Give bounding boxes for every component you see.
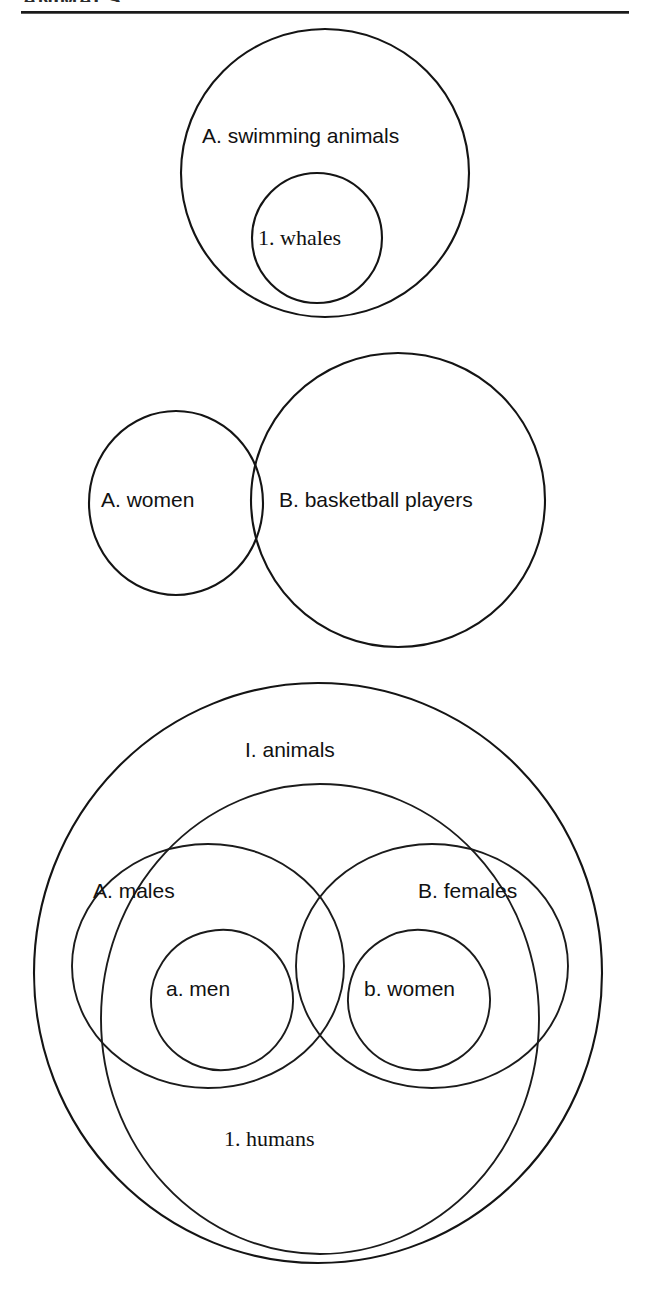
animals-circle <box>34 683 602 1263</box>
figure-3-shapes <box>34 683 602 1263</box>
label-whales: 1. whales <box>258 227 341 249</box>
label-humans: 1. humans <box>224 1128 314 1150</box>
diagram-canvas <box>0 0 647 1303</box>
humans-ellipse <box>101 784 539 1254</box>
scanned-page: ANIMALS. A. s <box>0 0 647 1303</box>
label-women-set-b: b. women <box>364 978 455 999</box>
label-animals: I. animals <box>245 739 335 760</box>
label-swimming-animals: A. swimming animals <box>202 125 399 146</box>
men-ellipse <box>138 917 306 1083</box>
figure-1-shapes <box>181 29 469 317</box>
women-ellipse <box>335 917 503 1083</box>
label-basketball-players: B. basketball players <box>279 489 473 510</box>
label-men: a. men <box>166 978 230 999</box>
label-males: A. males <box>93 880 175 901</box>
label-women-set-a: A. women <box>101 489 194 510</box>
label-females: B. females <box>418 880 517 901</box>
